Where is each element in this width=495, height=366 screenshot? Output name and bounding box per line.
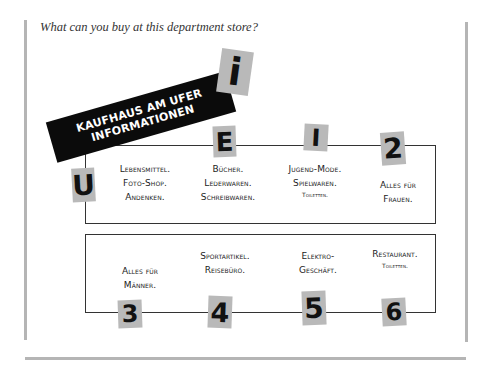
floor-sign-label: 6 <box>385 298 403 327</box>
left-margin-bar <box>24 20 27 340</box>
floor-U-departments: Lebensmittel. Foto-Shop. Andenken. <box>100 162 190 204</box>
floor-sign-label: 3 <box>121 300 139 329</box>
department-label: Elektro- <box>278 249 358 263</box>
floor-3-departments: Alles für Männer. <box>100 264 180 292</box>
floor-sign-label: 2 <box>382 131 404 165</box>
department-label: Spielwaren. <box>270 176 360 190</box>
floor-E-departments: Bücher. Lederwaren. Schreibwaren. <box>183 162 273 204</box>
floor-sign-2: 2 <box>380 131 406 166</box>
department-label: Geschäft. <box>278 263 358 277</box>
department-label: Schreibwaren. <box>183 190 273 204</box>
department-label: Lebensmittel. <box>100 162 190 176</box>
department-label-small: Toiletten. <box>270 190 360 199</box>
department-label: Foto-Shop. <box>100 176 190 190</box>
floor-sign-3: 3 <box>118 300 143 329</box>
department-label: Alles für <box>100 264 180 278</box>
floor-sign-label: U <box>71 168 95 202</box>
floor-sign-I: I <box>303 123 328 151</box>
right-margin-bar <box>465 22 468 342</box>
floor-5-departments: Elektro- Geschäft. <box>278 249 358 277</box>
question-prompt: What can you buy at this department stor… <box>40 20 258 35</box>
floor-sign-label: 5 <box>304 291 325 325</box>
department-label: Reisebüro. <box>180 263 270 277</box>
floor-6-departments: Restaurant. Toiletten. <box>350 247 440 270</box>
floor-sign-E: E <box>212 126 236 158</box>
info-sign-letter: i <box>225 49 244 94</box>
department-label: Frauen. <box>358 192 438 206</box>
department-label: Bücher. <box>183 162 273 176</box>
department-label: Männer. <box>100 278 180 292</box>
floor-sign-5: 5 <box>301 291 326 326</box>
floor-I-departments: Jugend-Mode. Spielwaren. Toiletten. <box>270 162 360 199</box>
department-label: Restaurant. <box>350 247 440 261</box>
department-label: Alles für <box>358 178 438 192</box>
department-label: Andenken. <box>100 190 190 204</box>
department-label: Lederwaren. <box>183 176 273 190</box>
floor-sign-label: E <box>215 126 234 157</box>
floor-2-departments: Alles für Frauen. <box>358 178 438 206</box>
floor-sign-label: 4 <box>210 296 230 328</box>
floor-sign-6: 6 <box>381 297 406 326</box>
department-label: Jugend-Mode. <box>270 162 360 176</box>
info-sign-icon: i <box>216 48 254 96</box>
floor-4-departments: Sportartikel. Reisebüro. <box>180 249 270 277</box>
department-label-small: Toiletten. <box>350 261 440 270</box>
bottom-rule <box>25 357 466 360</box>
floor-sign-U: U <box>71 167 96 202</box>
floor-sign-label: I <box>311 123 321 151</box>
floor-sign-4: 4 <box>207 296 232 329</box>
department-label: Sportartikel. <box>180 249 270 263</box>
